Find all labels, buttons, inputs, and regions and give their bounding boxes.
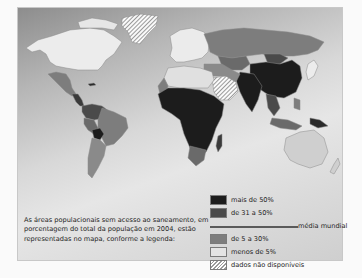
legend-item-31-to-50: de 31 a 50% [210,208,273,218]
region-russia [204,28,324,58]
region-japan [306,60,318,80]
world-average-divider [210,226,298,228]
legend-swatch-hatched [210,260,227,270]
legend-swatch [210,247,227,257]
region-europe [170,28,210,62]
region-arctic-islands [78,18,118,30]
legend-swatch [210,195,227,205]
region-australia [284,130,328,168]
legend-label: de 31 a 50% [231,209,273,217]
region-greenland [122,14,158,44]
legend-label: de 5 a 30% [231,235,268,243]
region-north-america [26,28,122,70]
legend-swatch [210,234,227,244]
region-central-america [72,94,84,106]
region-indonesia [270,118,302,130]
region-mexico [48,72,76,96]
region-madagascar [216,134,222,152]
legend-swatch [210,208,227,218]
legend-label: mais de 50% [231,196,274,204]
region-papua [310,118,328,128]
legend-item-no-data: dados não disponíveis [210,260,304,270]
legend-item-more-than-50: mais de 50% [210,195,274,205]
world-map [18,8,342,188]
legend-item-less-than-5: menos de 5% [210,247,276,257]
region-caribbean [88,83,96,86]
map-caption: As áreas populacionais sem acesso ao san… [24,216,220,244]
legend-item-5-to-30: de 5 a 30% [210,234,268,244]
map-panel: As áreas populacionais sem acesso ao san… [18,8,342,260]
legend-label: menos de 5% [231,248,276,256]
region-brazil [98,108,128,146]
region-southern-cone [88,138,106,178]
legend-label: dados não disponíveis [231,261,304,269]
region-new-zealand [330,158,340,174]
world-average-label: média mundial [298,222,347,230]
region-philippines [294,98,300,110]
